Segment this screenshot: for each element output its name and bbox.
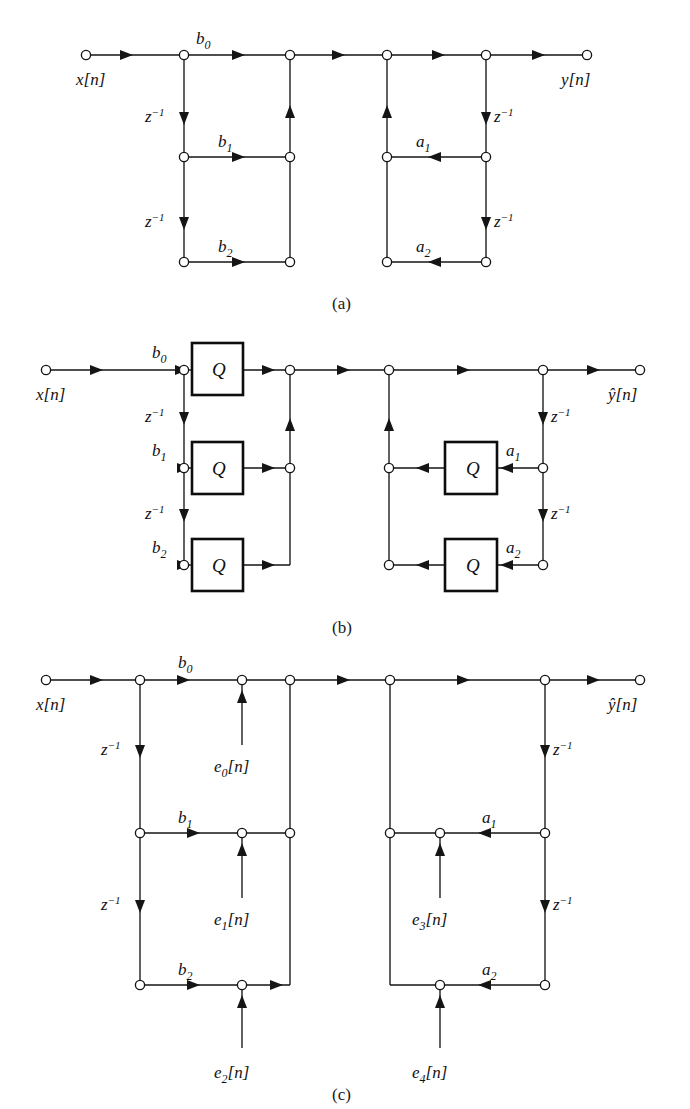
panel-b: Q Q Q Q Q x[n] ŷ[n] b0 b1 b2 a1 a2 z−1 z… <box>35 343 645 637</box>
node <box>285 828 294 837</box>
node <box>179 463 188 472</box>
noise-source-label-e3: e3[n] <box>412 910 447 933</box>
panel-c-delay-label-3: z−1 <box>552 739 573 759</box>
arrow-icon <box>416 463 429 473</box>
arrow-icon <box>179 509 189 522</box>
panel-b-b0-label: b0 <box>152 343 167 366</box>
panel-c-b2-label: b2 <box>178 960 193 983</box>
node <box>285 365 294 374</box>
figure-canvas: x[n] y[n] b0 b1 b2 a1 a2 z−1 z−1 z−1 z−1… <box>0 0 690 1109</box>
arrow-icon <box>435 995 445 1008</box>
panel-a-a1-label: a1 <box>416 132 431 155</box>
caption-b: (b) <box>332 618 352 637</box>
panel-a-b0-label: b0 <box>196 29 211 52</box>
arrow-icon <box>481 217 491 230</box>
panel-c-delay-label-2: z−1 <box>100 894 121 914</box>
panel-c-input-label: x[n] <box>35 695 65 714</box>
arrow-icon <box>179 412 189 425</box>
panel-c-b0-label: b0 <box>178 653 193 676</box>
node <box>481 152 490 161</box>
arrow-icon <box>135 900 145 913</box>
arrow-icon <box>262 365 275 375</box>
node <box>384 463 393 472</box>
arrow-icon <box>500 560 513 570</box>
quantizer-label: Q <box>466 555 480 576</box>
arrow-icon <box>285 418 295 431</box>
node <box>285 675 294 684</box>
quantizer-label: Q <box>212 555 226 576</box>
arrow-icon <box>538 509 548 522</box>
node-input <box>41 365 50 374</box>
panel-b-delay-label-2: z−1 <box>144 503 165 523</box>
node <box>179 257 188 266</box>
arrow-icon <box>384 418 394 431</box>
arrow-icon <box>587 675 600 685</box>
arrow-icon <box>540 900 550 913</box>
arrow-icon <box>177 675 190 685</box>
arrow-icon <box>416 560 429 570</box>
node <box>285 152 294 161</box>
arrow-icon <box>478 828 491 838</box>
node <box>385 828 394 837</box>
node-input <box>81 50 90 59</box>
panel-c: x[n] ŷ[n] b0 b1 b2 a1 a2 z−1 z−1 z−1 z−1… <box>35 653 645 1104</box>
node-input <box>41 675 50 684</box>
arrow-icon <box>457 365 470 375</box>
arrow-icon <box>382 105 392 118</box>
node <box>135 828 144 837</box>
panel-a-delay-label-4: z−1 <box>493 211 514 231</box>
arrow-icon <box>587 365 600 375</box>
panel-c-a1-label: a1 <box>482 808 497 831</box>
arrow-icon <box>285 105 295 118</box>
arrow-icon <box>90 675 103 685</box>
arrow-icon <box>179 112 189 125</box>
node-sum-e3 <box>435 828 444 837</box>
arrow-icon <box>540 745 550 758</box>
noise-source-label-e2: e2[n] <box>214 1063 249 1086</box>
node <box>285 257 294 266</box>
arrow-icon <box>262 463 275 473</box>
panel-b-delay-label-4: z−1 <box>550 503 571 523</box>
arrow-icon <box>332 50 345 60</box>
arrow-icon <box>270 980 283 990</box>
node <box>135 675 144 684</box>
node <box>179 152 188 161</box>
node-output <box>635 365 644 374</box>
quantizer-label: Q <box>212 458 226 479</box>
panel-a: x[n] y[n] b0 b1 b2 a1 a2 z−1 z−1 z−1 z−1… <box>75 29 592 313</box>
node-sum-e2 <box>237 980 246 989</box>
panel-b-a2-label: a2 <box>506 538 521 561</box>
panel-b-delay-label-3: z−1 <box>550 406 571 426</box>
node <box>481 257 490 266</box>
quantizer-label: Q <box>466 458 480 479</box>
node <box>538 560 547 569</box>
node <box>540 980 549 989</box>
noise-source-label-e4: e4[n] <box>412 1063 447 1086</box>
node <box>285 50 294 59</box>
panel-b-a1-label: a1 <box>506 441 521 464</box>
node <box>179 50 188 59</box>
arrow-icon <box>262 560 275 570</box>
node <box>540 828 549 837</box>
arrow-icon <box>232 50 245 60</box>
node <box>538 463 547 472</box>
panel-b-b2-label: b2 <box>152 538 167 561</box>
arrow-icon <box>237 995 247 1008</box>
arrow-icon <box>432 50 445 60</box>
node <box>382 50 391 59</box>
node <box>285 463 294 472</box>
node <box>481 50 490 59</box>
arrow-icon <box>135 745 145 758</box>
node-sum-e0 <box>237 675 246 684</box>
node <box>540 675 549 684</box>
caption-c: (c) <box>332 1085 351 1104</box>
arrow-icon <box>481 112 491 125</box>
arrow-icon <box>435 843 445 856</box>
panel-a-a2-label: a2 <box>416 237 431 260</box>
arrow-icon <box>457 675 470 685</box>
caption-a: (a) <box>332 294 351 313</box>
node <box>385 675 394 684</box>
noise-source-label-e0: e0[n] <box>214 757 249 780</box>
arrow-icon <box>237 690 247 703</box>
quantizer-label: Q <box>212 359 226 380</box>
